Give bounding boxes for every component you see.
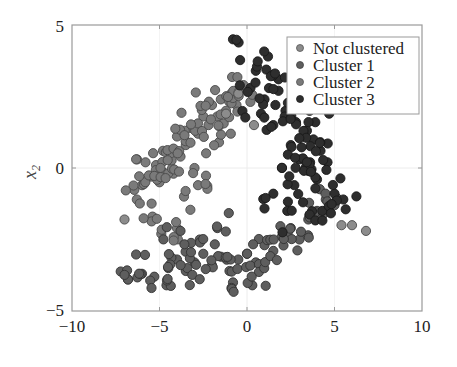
data-point (234, 89, 243, 98)
data-point (186, 138, 195, 147)
data-point (152, 214, 161, 223)
data-point (132, 155, 141, 164)
data-point (249, 121, 258, 130)
data-point (186, 205, 195, 214)
data-point (214, 121, 223, 130)
data-point (327, 200, 336, 209)
data-point (224, 209, 233, 218)
data-point (261, 193, 270, 202)
data-point (180, 240, 189, 249)
data-point (311, 184, 320, 193)
data-point (287, 206, 296, 215)
data-point (221, 109, 230, 118)
data-point (199, 235, 208, 244)
y-tick-labels: −5 0 5 (46, 17, 64, 320)
data-point (260, 113, 269, 122)
legend: Not clustered Cluster 1 Cluster 2 Cluste… (287, 37, 419, 114)
data-point (180, 131, 189, 140)
data-point (229, 287, 238, 296)
data-point (156, 163, 165, 172)
data-point (207, 256, 216, 265)
data-point (162, 223, 171, 232)
data-point (352, 192, 361, 201)
legend-marker-not-clustered (297, 45, 304, 52)
data-point (270, 69, 279, 78)
data-point (202, 149, 211, 158)
data-point (286, 114, 295, 123)
x-tick-label: −5 (150, 317, 168, 336)
data-point (269, 85, 278, 94)
data-point (192, 260, 201, 269)
data-point (341, 205, 350, 214)
data-point (186, 248, 195, 257)
data-point (285, 172, 294, 181)
data-point (221, 227, 230, 236)
data-point (347, 221, 356, 230)
y-axis-label-main: x (20, 171, 40, 180)
data-point (159, 235, 168, 244)
data-point (163, 262, 172, 271)
x-tick-labels: −10 −5 0 5 10 (59, 317, 431, 336)
data-point (181, 186, 190, 195)
data-point (241, 113, 250, 122)
data-point (201, 171, 210, 180)
data-point (267, 122, 276, 131)
data-point (173, 149, 182, 158)
data-point (304, 233, 313, 242)
data-point (295, 134, 304, 143)
svg-text:x2: x2 (20, 165, 43, 180)
data-point (189, 169, 198, 178)
x-tick-label: 0 (243, 317, 252, 336)
data-point (164, 250, 173, 259)
data-point (147, 199, 156, 208)
data-point (304, 118, 313, 127)
data-point (226, 129, 235, 138)
data-point (297, 143, 306, 152)
data-point (210, 240, 219, 249)
data-point (235, 81, 244, 90)
data-point (149, 149, 158, 158)
data-point (201, 101, 210, 110)
data-point (161, 174, 170, 183)
data-point (174, 167, 183, 176)
legend-marker-cluster-3 (297, 96, 304, 103)
data-point (271, 100, 280, 109)
y-axis-label: x2 (20, 165, 43, 180)
data-point (163, 274, 172, 283)
data-point (120, 215, 129, 224)
data-point (132, 250, 141, 259)
data-point (199, 132, 208, 141)
data-point (328, 180, 337, 189)
data-point (211, 86, 220, 95)
data-point (255, 94, 264, 103)
data-point (296, 227, 305, 236)
data-point (121, 186, 130, 195)
data-point (278, 228, 287, 237)
data-point (298, 198, 307, 207)
data-point (260, 47, 269, 56)
data-point (302, 158, 311, 167)
data-point (322, 165, 331, 174)
data-point (176, 261, 185, 270)
y-tick-label: 5 (56, 17, 65, 36)
data-point (233, 73, 242, 82)
data-point (337, 221, 346, 230)
legend-marker-cluster-2 (297, 79, 304, 86)
x-tick-label: 10 (414, 317, 431, 336)
data-point (318, 216, 327, 225)
data-point (246, 261, 255, 270)
data-point (326, 209, 335, 218)
data-point (291, 163, 300, 172)
data-point (253, 57, 262, 66)
data-point (135, 172, 144, 181)
data-point (172, 218, 181, 227)
data-point (212, 222, 221, 231)
data-point (185, 281, 194, 290)
scatter-chart: −10 −5 0 5 10 −5 0 5 x2 Not clustered Cl… (0, 0, 457, 367)
x-tick-label: 5 (330, 317, 339, 336)
data-point (236, 56, 245, 65)
data-point (201, 265, 210, 274)
data-point (361, 226, 370, 235)
data-point (210, 141, 219, 150)
data-point (232, 35, 241, 44)
